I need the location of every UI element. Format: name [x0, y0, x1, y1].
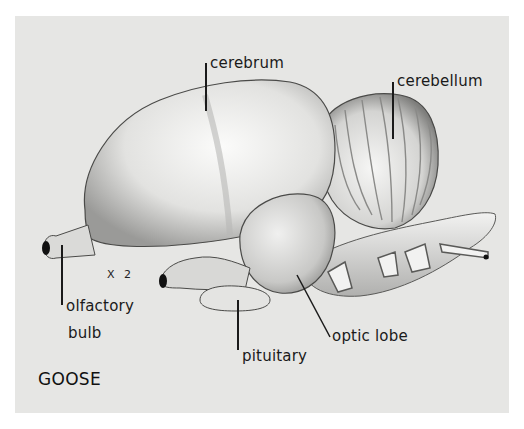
scale-indicator: X 2	[107, 268, 134, 281]
optic-lobe-leader	[0, 0, 524, 429]
label-optic-lobe: optic lobe	[332, 328, 408, 345]
figure-title: GOOSE	[38, 369, 101, 389]
